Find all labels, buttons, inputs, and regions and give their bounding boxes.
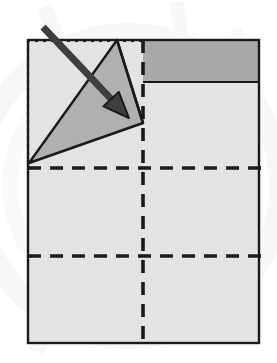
diagram-canvas xyxy=(0,0,277,363)
shaded-top-band xyxy=(143,40,259,82)
origami-diagram-figure xyxy=(0,0,277,363)
